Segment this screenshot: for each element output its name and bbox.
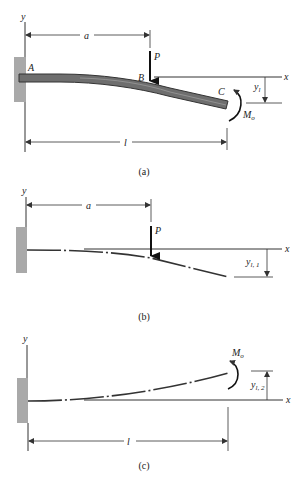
panel-a-caption: (a) — [138, 166, 149, 178]
deflection-label: yl, 2 — [250, 379, 265, 392]
deflection-label: yl — [253, 81, 260, 94]
point-b-label: B — [138, 72, 144, 83]
deflection-label: yl, 1 — [245, 256, 259, 269]
point-a-label: A — [27, 62, 35, 73]
fixed-wall — [17, 378, 28, 423]
y-axis-label: y — [21, 185, 27, 196]
elastic-curve — [27, 250, 228, 277]
panel-b: y x a P yl, 1 (b) — [16, 185, 290, 323]
y-axis-label: y — [20, 11, 26, 22]
deflected-beam — [19, 74, 228, 109]
x-axis-label: x — [285, 394, 291, 405]
cantilever-beam-figure: y x A B C a P Mo yl l — [0, 0, 306, 481]
load-p-label: P — [154, 225, 161, 236]
moment-arrow — [229, 90, 241, 121]
y-axis-label: y — [22, 333, 28, 344]
dim-a-label: a — [86, 200, 91, 211]
load-p-label: P — [153, 51, 160, 62]
elastic-curve — [28, 373, 228, 401]
moment-label: Mo — [231, 347, 244, 360]
panel-a: y x A B C a P Mo yl l — [14, 11, 289, 178]
panel-c: y x Mo yl, 2 l (c) — [17, 333, 291, 472]
panel-c-caption: (c) — [138, 460, 149, 472]
point-c-label: C — [218, 86, 225, 97]
x-axis-label: x — [283, 71, 289, 82]
panel-b-caption: (b) — [138, 311, 150, 323]
moment-label: Mo — [242, 109, 255, 122]
dim-a-label: a — [84, 30, 89, 41]
dim-l-label: l — [124, 137, 127, 148]
x-axis-label: x — [284, 243, 290, 254]
fixed-wall — [16, 227, 27, 273]
moment-arrow — [228, 361, 238, 389]
dim-l-label: l — [127, 436, 130, 447]
